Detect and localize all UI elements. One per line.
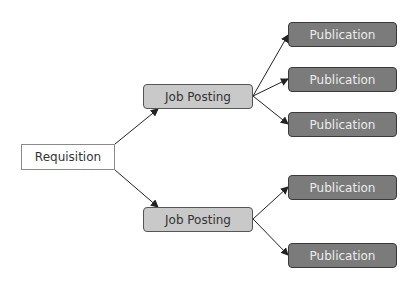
arrow-job-1-to-pub-3 — [253, 96, 288, 124]
arrow-job-2-to-pub-4 — [253, 187, 288, 219]
arrow-job-2-to-pub-5 — [253, 219, 288, 255]
publication-label: Publication — [310, 249, 376, 263]
arrow-requisition-to-job-posting-2 — [115, 170, 158, 207]
publication-node-3: Publication — [288, 112, 397, 137]
arrow-job-1-to-pub-1 — [253, 35, 288, 96]
job-posting-label: Job Posting — [165, 90, 231, 104]
publication-node-4: Publication — [288, 175, 397, 200]
publication-label: Publication — [310, 73, 376, 87]
publication-label: Publication — [310, 181, 376, 195]
job-posting-label: Job Posting — [165, 213, 231, 227]
publication-label: Publication — [310, 118, 376, 132]
job-posting-node-2: Job Posting — [143, 207, 253, 232]
requisition-label: Requisition — [35, 150, 101, 164]
arrow-requisition-to-job-posting-1 — [115, 109, 158, 144]
job-posting-node-1: Job Posting — [143, 84, 253, 109]
publication-node-1: Publication — [288, 22, 397, 47]
publication-node-5: Publication — [288, 243, 397, 268]
publication-node-2: Publication — [288, 67, 397, 92]
publication-label: Publication — [310, 28, 376, 42]
requisition-node: Requisition — [21, 144, 115, 170]
